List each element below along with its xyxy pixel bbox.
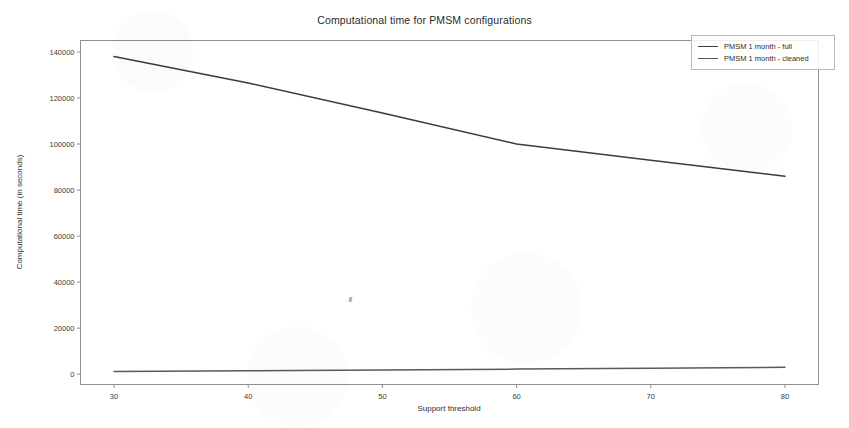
y-tick-label: 80000 — [54, 186, 75, 195]
x-tick-label: 40 — [244, 392, 252, 401]
x-axis-title: Support threshold — [417, 404, 480, 413]
legend-swatch-full — [698, 46, 718, 47]
x-tick-label: 80 — [781, 392, 789, 401]
y-tick-label: 40000 — [54, 278, 75, 287]
x-axis-ticks: 304050607080 — [110, 385, 789, 401]
legend-swatch-cleaned — [698, 58, 718, 59]
y-tick-label: 20000 — [54, 324, 75, 333]
legend: PMSM 1 month - full PMSM 1 month - clean… — [691, 35, 835, 70]
y-tick-label: 0 — [70, 370, 74, 379]
x-tick-label: 60 — [512, 392, 520, 401]
x-tick-label: 70 — [647, 392, 655, 401]
y-tick-label: 120000 — [49, 94, 74, 103]
legend-item-cleaned: PMSM 1 month - cleaned — [698, 52, 828, 64]
series-line-0 — [114, 57, 785, 177]
y-axis-title: Computational time (in seconds) — [15, 154, 24, 269]
series-lines — [114, 57, 785, 372]
x-tick-label: 50 — [378, 392, 386, 401]
series-line-1 — [114, 367, 785, 371]
y-tick-label: 60000 — [54, 232, 75, 241]
axes-frame — [81, 41, 819, 385]
legend-item-full: PMSM 1 month - full — [698, 40, 828, 52]
legend-label-cleaned: PMSM 1 month - cleaned — [724, 54, 809, 63]
x-tick-label: 30 — [110, 392, 118, 401]
y-tick-label: 100000 — [49, 140, 74, 149]
y-tick-label: 140000 — [49, 48, 74, 57]
chart-figure: Computational time for PMSM configuratio… — [0, 0, 849, 428]
y-axis-ticks: 020000400006000080000100000120000140000 — [49, 48, 80, 379]
legend-label-full: PMSM 1 month - full — [724, 42, 792, 51]
